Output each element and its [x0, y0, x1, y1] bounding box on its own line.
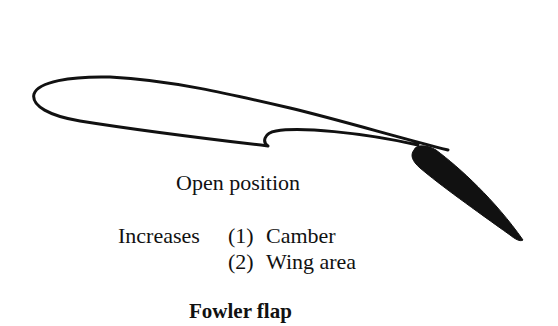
- fowler-flap: [412, 146, 523, 241]
- main-wing-outline: [34, 77, 448, 150]
- fowler-flap-diagram: Open position Increases (1) Camber (2) W…: [0, 0, 558, 326]
- effect-item-number: (1): [228, 223, 254, 249]
- effect-item-number: (2): [228, 249, 254, 275]
- state-caption: Open position: [176, 170, 300, 196]
- effects-label: Increases: [118, 223, 200, 249]
- airfoil-drawing: [0, 0, 558, 326]
- effect-item-wing-area: Wing area: [266, 249, 356, 275]
- effect-item-camber: Camber: [266, 223, 336, 249]
- diagram-title: Fowler flap: [189, 299, 292, 324]
